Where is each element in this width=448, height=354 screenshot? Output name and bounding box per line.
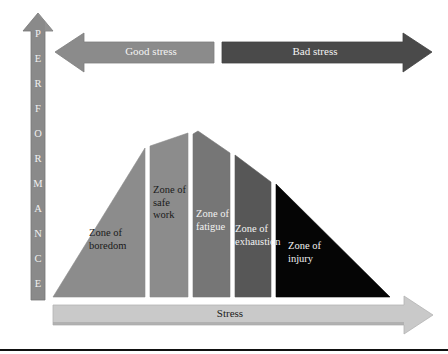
zone-safe-work xyxy=(150,133,188,297)
bottom-divider xyxy=(0,349,448,351)
axis-letter: F xyxy=(29,103,47,114)
axis-letter: C xyxy=(29,253,47,264)
axis-letter: N xyxy=(29,228,47,239)
good-stress-label: Good stress xyxy=(96,45,206,57)
zone-boredom xyxy=(53,148,145,297)
diagram-canvas: P E R F O R M A N C E Good stress Bad st… xyxy=(0,0,448,354)
zone-fatigue xyxy=(193,131,230,297)
axis-letter: E xyxy=(29,278,47,289)
axis-letter: A xyxy=(29,203,47,214)
axis-letter: O xyxy=(29,128,47,139)
diagram-graphics xyxy=(0,0,448,354)
axis-letter: M xyxy=(29,178,47,189)
axis-letter: E xyxy=(29,53,47,64)
zone-injury xyxy=(276,184,390,297)
axis-letter: P xyxy=(29,28,47,39)
axis-letter: R xyxy=(29,153,47,164)
bad-stress-label: Bad stress xyxy=(250,45,380,57)
axis-letter: R xyxy=(29,78,47,89)
zone-exhaustion xyxy=(235,155,271,297)
vertical-axis-label: P E R F O R M A N C E xyxy=(29,24,47,296)
stress-axis-label: Stress xyxy=(180,307,280,319)
